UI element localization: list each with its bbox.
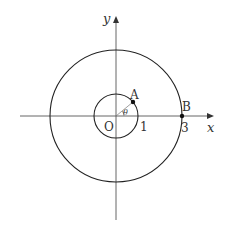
y-axis-arrow-icon: [113, 16, 119, 23]
x-axis-arrow-icon: [207, 113, 214, 119]
angle-label: θ: [123, 108, 128, 117]
coordinate-diagram: y x O 1 3 A B θ: [0, 0, 225, 227]
x-axis-label: x: [207, 120, 215, 135]
point-b: [180, 114, 184, 118]
y-axis-label: y: [102, 11, 111, 26]
point-a-label: A: [129, 88, 139, 102]
origin-label: O: [104, 120, 114, 134]
inner-tick-label: 1: [140, 120, 148, 134]
point-b-label: B: [182, 100, 191, 114]
outer-tick-label: 3: [181, 121, 189, 135]
